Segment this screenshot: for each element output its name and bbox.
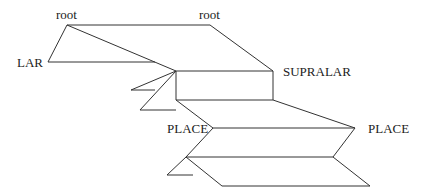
supralar-plane	[176, 71, 273, 100]
root-left-label: root	[56, 7, 77, 22]
supralar-label: SUPRALAR	[283, 64, 351, 79]
place-right-label: PLACE	[368, 121, 409, 136]
side-triangles	[131, 71, 176, 110]
lower-plane	[167, 157, 370, 186]
feature-geometry-diagram: root root LAR SUPRALAR PLACE PLACE	[0, 0, 421, 196]
lar-label: LAR	[17, 55, 43, 70]
place-left-label: PLACE	[167, 121, 208, 136]
root-plane	[48, 25, 273, 71]
root-right-label: root	[199, 7, 220, 22]
